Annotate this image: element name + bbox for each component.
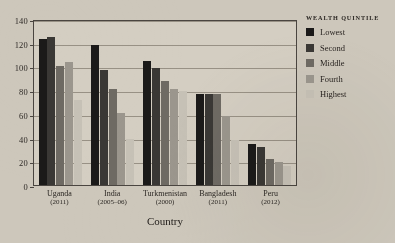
legend-label: Middle <box>320 58 345 68</box>
bar <box>100 70 108 185</box>
bar <box>205 94 213 185</box>
legend-item: Highest <box>306 89 392 99</box>
x-axis-country-name: Peru <box>244 189 297 198</box>
bar <box>47 37 55 185</box>
bar-group <box>34 21 86 185</box>
bar <box>222 116 230 185</box>
legend-swatch <box>306 75 314 83</box>
legend-swatch <box>306 28 314 36</box>
y-axis-tick <box>30 187 34 188</box>
bar <box>213 94 221 185</box>
bar <box>170 89 178 185</box>
legend-item: Fourth <box>306 74 392 84</box>
bar-group <box>191 21 243 185</box>
x-axis-year: (2000) <box>139 198 192 206</box>
bar <box>143 61 151 186</box>
bar <box>91 45 99 185</box>
legend-swatch <box>306 90 314 98</box>
legend-swatch <box>306 59 314 67</box>
bar <box>126 139 134 185</box>
legend-label: Second <box>320 43 345 53</box>
bar <box>109 89 117 185</box>
legend-item: Middle <box>306 58 392 68</box>
bar-group <box>86 21 138 185</box>
x-axis-year: (2011) <box>33 198 86 206</box>
y-axis-tick-label: 100 <box>15 63 28 73</box>
y-axis-tick-label: 0 <box>24 182 28 192</box>
bar-group <box>244 21 296 185</box>
bar <box>117 113 125 185</box>
bar-group <box>139 21 191 185</box>
x-axis-year: (2012) <box>244 198 297 206</box>
x-axis-year: (2011) <box>191 198 244 206</box>
bar <box>231 140 239 185</box>
y-axis-tick-label: 60 <box>19 111 28 121</box>
y-axis-tick-label: 20 <box>19 158 28 168</box>
legend-rows: LowestSecondMiddleFourthHighest <box>306 27 392 99</box>
legend-item: Lowest <box>306 27 392 37</box>
legend: WEALTH QUINTILE LowestSecondMiddleFourth… <box>306 14 392 105</box>
legend-label: Lowest <box>320 27 345 37</box>
x-axis-country-name: Uganda <box>33 189 86 198</box>
x-axis-label: Turkmenistan(2000) <box>139 189 192 207</box>
legend-label: Highest <box>320 89 346 99</box>
y-axis-tick-label: 140 <box>15 16 28 26</box>
bar <box>283 166 291 185</box>
y-axis-tick-label: 80 <box>19 87 28 97</box>
bar <box>196 94 204 185</box>
x-axis-label: Uganda(2011) <box>33 189 86 207</box>
bar <box>179 91 187 185</box>
x-axis-year: (2005–06) <box>86 198 139 206</box>
x-axis-label: Peru(2012) <box>244 189 297 207</box>
bar <box>74 100 82 185</box>
x-axis-labels: Uganda(2011)India(2005–06)Turkmenistan(2… <box>33 189 297 207</box>
x-axis-country-name: Bangladesh <box>191 189 244 198</box>
x-axis-label: Bangladesh(2011) <box>191 189 244 207</box>
x-axis-country-name: Turkmenistan <box>139 189 192 198</box>
y-axis-tick-label: 120 <box>15 40 28 50</box>
bar <box>248 144 256 186</box>
legend-swatch <box>306 44 314 52</box>
y-axis-tick-label: 40 <box>19 135 28 145</box>
chart-page: Under-five mortality rate 02040608010012… <box>0 0 395 243</box>
x-axis-label: India(2005–06) <box>86 189 139 207</box>
legend-item: Second <box>306 43 392 53</box>
bar <box>275 162 283 185</box>
bar <box>161 81 169 185</box>
bar-groups <box>34 21 296 185</box>
legend-label: Fourth <box>320 74 343 84</box>
bar <box>152 68 160 185</box>
bar <box>257 147 265 185</box>
x-axis-title: Country <box>33 215 297 227</box>
legend-title: WEALTH QUINTILE <box>306 14 392 21</box>
bar <box>39 39 47 185</box>
plot-area: 020406080100120140 <box>33 20 297 186</box>
x-axis-country-name: India <box>86 189 139 198</box>
bar <box>266 159 274 185</box>
bar <box>65 62 73 185</box>
bar <box>56 66 64 185</box>
